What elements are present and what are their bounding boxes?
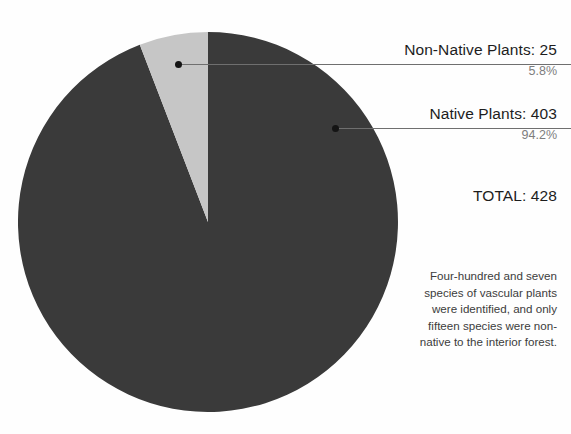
- total-label: TOTAL: 428: [473, 187, 557, 205]
- callout-native-percent: 94.2%: [429, 126, 557, 144]
- pie-chart-figure: Non-Native Plants: 25 5.8% Native Plants…: [0, 0, 571, 434]
- callout-native-title: Native Plants: 403: [429, 104, 557, 124]
- callout-non-native-title: Non-Native Plants: 25: [404, 40, 557, 60]
- pie-chart-graphic: [18, 32, 398, 412]
- callout-native: Native Plants: 403 94.2%: [429, 104, 557, 144]
- callout-non-native: Non-Native Plants: 25 5.8%: [404, 40, 557, 80]
- description-note: Four-hundred and seven species of vascul…: [405, 268, 557, 351]
- callout-non-native-percent: 5.8%: [404, 62, 557, 80]
- leader-dot-non-native: [175, 61, 182, 68]
- leader-dot-native: [332, 125, 339, 132]
- pie-svg: [18, 32, 398, 412]
